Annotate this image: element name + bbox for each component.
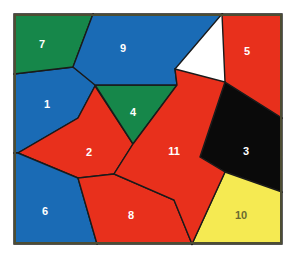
map-svg: 1234567891011	[0, 0, 296, 261]
map-coloring-figure: 1234567891011	[0, 0, 296, 261]
regions-group	[14, 14, 282, 244]
